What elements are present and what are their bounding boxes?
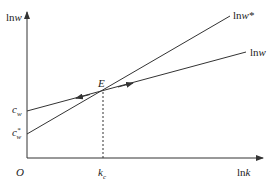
left-arrow-icon bbox=[76, 95, 90, 99]
lnw-label: lnw bbox=[250, 46, 267, 58]
kc-label: kc bbox=[98, 166, 107, 181]
lnw-star-label: lnw* bbox=[233, 9, 254, 21]
cw-star-label: c*w bbox=[12, 126, 21, 141]
lnw-line bbox=[27, 52, 246, 111]
y-axis-label: lnw bbox=[6, 11, 23, 23]
origin-label: O bbox=[16, 166, 24, 178]
cw-label: cw bbox=[12, 103, 22, 118]
x-axis-label: lnk bbox=[237, 166, 252, 178]
lnw-star-line bbox=[27, 16, 230, 134]
point-e-label: E bbox=[97, 77, 105, 89]
diagram-canvas: lnw lnk O E lnw* lnw cw c*w kc bbox=[0, 0, 274, 182]
right-arrow-icon bbox=[118, 83, 133, 87]
